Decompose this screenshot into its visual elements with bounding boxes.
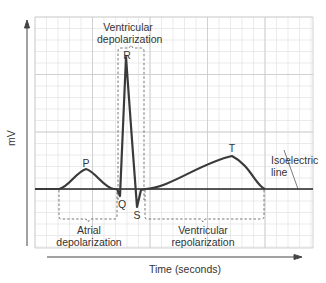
isoelectric-line-label: Isoelectric line bbox=[271, 154, 318, 178]
x-axis-label: Time (seconds) bbox=[140, 263, 230, 275]
ventricular-depolarization-label: Ventricular depolarization bbox=[97, 21, 159, 45]
ecg-diagram bbox=[0, 0, 326, 283]
wave-label-q: Q bbox=[116, 198, 128, 210]
ventricular-repolarization-bracket bbox=[145, 190, 264, 222]
wave-label-s: S bbox=[131, 209, 143, 221]
y-axis-label: mV bbox=[5, 130, 17, 146]
wave-label-r: R bbox=[121, 49, 133, 61]
ventricular-repolarization-label: Ventricular repolarization bbox=[166, 224, 240, 248]
wave-label-t: T bbox=[226, 142, 238, 154]
x-axis bbox=[47, 255, 302, 260]
atrial-depolarization-bracket bbox=[59, 190, 117, 222]
wave-label-p: P bbox=[80, 157, 92, 169]
y-axis bbox=[25, 20, 30, 246]
atrial-depolarization-label: Atrial depolarization bbox=[54, 224, 124, 248]
grid bbox=[35, 17, 313, 248]
